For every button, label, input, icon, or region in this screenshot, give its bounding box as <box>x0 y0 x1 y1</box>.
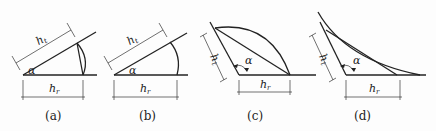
dim-tick <box>67 23 75 37</box>
incline-dim-label: ht <box>33 32 49 49</box>
angle-label: α <box>28 64 36 77</box>
panel-caption: (a) <box>45 109 62 123</box>
panel-caption: (b) <box>139 109 156 123</box>
panel-a: ht α hr (a) <box>12 23 97 123</box>
panel-caption: (c) <box>247 109 263 123</box>
base-dim-label: hr <box>260 78 271 92</box>
incline-dim-label: ht <box>124 32 140 49</box>
angle-label: α <box>129 64 137 77</box>
panel-b: ht α hr (b) <box>104 23 188 123</box>
angle-arrow-icon <box>244 68 249 72</box>
angle-label: α <box>353 54 361 67</box>
base-dim-label: hr <box>140 82 151 96</box>
angle-label: α <box>245 54 253 67</box>
panel-d: ht α hr (d) <box>309 12 426 123</box>
panel-c: ht α hr (c) <box>200 22 316 123</box>
curve <box>318 12 420 75</box>
angle-arrow-icon <box>351 68 356 72</box>
base-dim-label: hr <box>369 82 380 96</box>
dim-tick <box>104 56 112 70</box>
base-dim-label: hr <box>49 82 60 96</box>
chord <box>326 30 397 75</box>
incline-dimension-line <box>16 30 71 63</box>
arc <box>170 42 178 75</box>
dim-tick <box>159 23 167 37</box>
dim-tick <box>12 56 20 70</box>
incline-dim-label: ht <box>315 52 332 67</box>
panel-caption: (d) <box>354 109 371 123</box>
incline-line <box>210 22 239 75</box>
figure-canvas: ht α hr (a) ht α hr (b) ht α <box>0 0 436 131</box>
incline-dim-label: ht <box>206 52 223 67</box>
incline-dimension-line <box>108 30 163 63</box>
